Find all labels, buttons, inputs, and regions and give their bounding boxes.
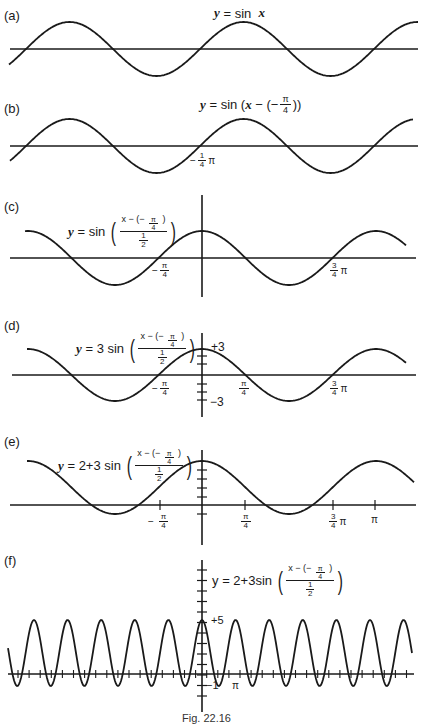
eq-equals: = [85,341,93,356]
panel-label-a: (a) [4,8,20,23]
eq-coef: 3 [97,341,104,356]
equation-c: y = sin ( x − (− π4 ) 12 ) [68,214,178,249]
eq-sin: sin [107,341,124,356]
tick-c-three-quarter-pi: 34 π [328,262,347,279]
eq-equals: = [222,573,230,588]
fraction-main: x − (− π4 ) 12 [286,563,334,598]
tick-f-pi: π [232,680,239,691]
tick-e-pi-over-4: π4 [239,513,253,530]
eq-x: x [258,5,265,21]
fraction-pi-over-4: π4 [280,94,290,115]
equation-e: y = 2+3 sin ( x − (− π4 ) 12 ) [58,448,194,483]
tick-f-plus5: +5 [211,614,224,626]
eq-coef: 2+3 [79,458,101,473]
panel-label-f: (f) [4,553,16,568]
eq-y: y [214,5,220,21]
eq-coef-sin: 2+3sin [233,573,272,588]
equation-a: y = sin x [214,5,265,21]
eq-equals: = [223,6,231,21]
eq-y: y [76,341,82,357]
right-paren: ) [171,219,176,245]
tick-e-pi: π [371,514,378,525]
eq-sin: sin [235,6,252,21]
tick-e-three-quarter-pi: 34 π [327,513,346,530]
tick-b-neg-quarter-pi: − 14 π [190,152,215,169]
eq-y: y [68,224,74,240]
eq-y: y [212,573,219,588]
tick-e-neg-pi-over-4: − π4 [148,513,170,530]
eq-y: y [200,97,206,113]
equation-d: y = 3 sin ( x − (− π4 ) 12 ) [76,331,197,366]
panel-label-b: (b) [4,101,20,116]
equation-b: y = sin ( x − (− π4)) [200,94,301,115]
eq-sin: sin [104,458,121,473]
panel-label-c: (c) [4,199,19,214]
eq-sin: sin [89,224,106,239]
eq-equals: = [67,458,75,473]
figure-caption: Fig. 22.16 [182,712,231,724]
eq-equals: = [77,224,85,239]
tick-c-neg-pi-over-4: − π4 [152,262,171,279]
tick-d-plus3: +3 [211,340,225,354]
tick-d-pi-over-4: π4 [237,380,251,397]
panel-label-e: (e) [4,434,20,449]
equation-f: y = 2+3sin ( x − (− π4 ) 12 ) [212,563,345,598]
eq-y: y [58,458,64,474]
tick-f-minus1: −1 [206,679,219,691]
eq-equals: = [209,97,217,112]
tick-d-neg-pi-over-4: − π4 [152,380,171,397]
tick-d-three-quarter-pi: 34 π [328,380,347,397]
eq-sin: sin [221,97,238,112]
fraction-main: x − (− π4 ) 12 [135,448,183,483]
tick-d-minus3: −3 [210,395,224,409]
fraction-main: x − (− π4 ) 12 [120,214,168,249]
fraction-main: x − (− π4 ) 12 [138,331,186,366]
eq-x: x [245,97,252,113]
panel-label-d: (d) [4,318,20,333]
left-paren: ( [111,219,116,245]
